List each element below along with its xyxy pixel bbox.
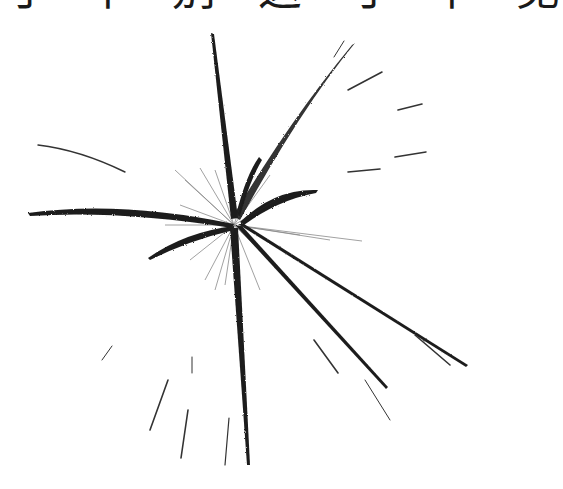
stroke-left-leaf — [148, 226, 234, 260]
stroke-downright-b — [238, 224, 468, 367]
stroke-up — [211, 33, 238, 219]
stroke-downright-a — [236, 226, 388, 389]
stroke-down — [230, 228, 250, 465]
